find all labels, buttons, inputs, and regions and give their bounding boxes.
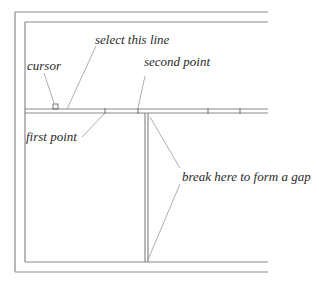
- vertical-partition-wall[interactable]: [145, 113, 148, 262]
- cursor-icon: [53, 104, 58, 109]
- second-point-label: second point: [144, 54, 210, 69]
- leader-lines: [44, 46, 180, 262]
- floor-plan-diagram: cursor select this line second point fir…: [0, 0, 319, 286]
- selected-wall-line[interactable]: [25, 109, 268, 113]
- break-gap-label: break here to form a gap: [182, 169, 311, 184]
- cursor-label: cursor: [27, 58, 62, 73]
- first-point-label: first point: [26, 129, 77, 144]
- select-line-label: select this line: [95, 32, 170, 47]
